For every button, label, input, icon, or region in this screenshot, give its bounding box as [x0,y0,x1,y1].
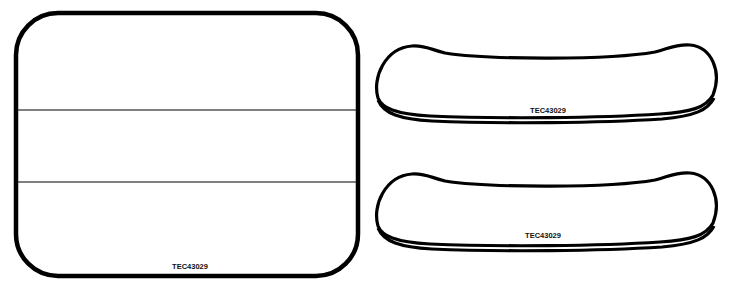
large-panel-outline [16,13,358,276]
large-panel-label: TEC43029 [172,262,208,271]
curved-panel-bottom-label: TEC43029 [525,231,561,240]
curved-panel-top: TEC43029 [377,45,717,123]
curved-panel-top-label: TEC43029 [530,106,566,115]
curved-panel-bottom: TEC43029 [377,173,717,251]
large-panel: TEC43029 [16,13,358,276]
diagram-canvas: TEC43029 TEC43029 TEC43029 [0,0,730,286]
